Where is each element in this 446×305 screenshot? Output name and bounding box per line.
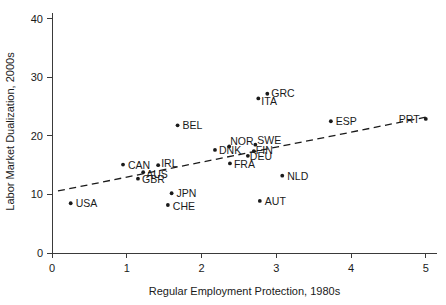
x-tick-label: 3 — [273, 262, 279, 274]
data-point-marker — [258, 199, 262, 203]
data-point-marker — [256, 97, 260, 101]
y-axis-title: Labor Market Dualization, 2000s — [4, 52, 16, 211]
data-points-group: USACANGBRAUSIRLCHEJPNBELDNKNORFRADEUFINS… — [69, 87, 428, 212]
data-point-label: NLD — [287, 170, 308, 182]
data-point-marker — [228, 162, 232, 166]
data-point-label: USA — [76, 197, 98, 209]
data-point-marker — [265, 92, 269, 96]
trend-line-group — [58, 117, 426, 191]
data-point-label: IRL — [161, 157, 178, 169]
data-point-label: SWE — [257, 134, 281, 146]
data-point-label: GRC — [271, 87, 295, 99]
data-point-marker — [280, 174, 284, 178]
plot-canvas: 010203040012345 USACANGBRAUSIRLCHEJPNBEL… — [0, 0, 446, 305]
y-tick-label: 10 — [31, 188, 43, 200]
data-point-marker — [166, 203, 170, 207]
data-point-marker — [170, 191, 174, 195]
x-tick-label: 4 — [348, 262, 354, 274]
data-point-label: NOR — [230, 135, 254, 147]
y-tick-label: 40 — [31, 13, 43, 25]
y-tick-label: 20 — [31, 130, 43, 142]
data-point-marker — [329, 119, 333, 123]
data-point-label: AUS — [146, 168, 168, 180]
x-tick-label: 0 — [49, 262, 55, 274]
data-point-label: ESP — [336, 115, 357, 127]
data-point-label: BEL — [183, 119, 203, 131]
y-tick-label: 0 — [37, 247, 43, 259]
x-tick-label: 1 — [124, 262, 130, 274]
data-point-label: JPN — [177, 187, 197, 199]
trend-line — [58, 117, 426, 191]
x-axis-title: Regular Employment Protection, 1980s — [149, 285, 341, 297]
data-point-marker — [141, 170, 145, 174]
data-point-marker — [69, 201, 73, 205]
data-point-marker — [136, 177, 140, 181]
data-point-label: CHE — [173, 200, 195, 212]
data-point-marker — [424, 117, 428, 121]
x-tick-label: 5 — [423, 262, 429, 274]
data-point-label: PRT — [399, 113, 420, 125]
data-point-marker — [176, 123, 180, 127]
data-point-marker — [156, 163, 160, 167]
data-point-label: AUT — [265, 195, 287, 207]
y-tick-label: 30 — [31, 71, 43, 83]
x-tick-label: 2 — [198, 262, 204, 274]
data-point-marker — [121, 163, 125, 167]
data-point-marker — [213, 148, 217, 152]
data-point-label: FIN — [256, 144, 273, 156]
scatter-chart-figure: 010203040012345 USACANGBRAUSIRLCHEJPNBEL… — [0, 0, 446, 305]
